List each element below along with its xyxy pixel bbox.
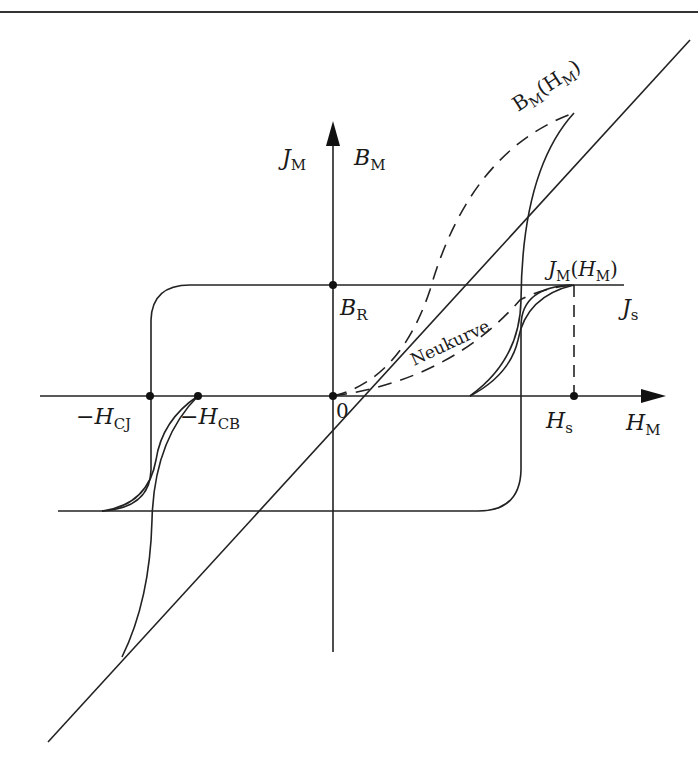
j-loop-left-side (102, 285, 190, 511)
b-loop-left-branch (122, 396, 198, 657)
j-curve-label: JM(HM) (544, 257, 618, 284)
coercivity-b-label: −HCB (180, 404, 240, 433)
coercivity-j-label: −HCJ (76, 404, 131, 433)
b-loop-right-branch (470, 113, 574, 396)
b-curve-label: BM(HM) (508, 54, 587, 118)
coercivity-j-point (146, 392, 154, 400)
remanence-point (329, 281, 337, 289)
j-loop-inner-right (470, 285, 574, 396)
saturation-label: Js (618, 295, 639, 324)
vertical-axis-arrow-icon (326, 121, 340, 146)
remanence-label: BR (339, 295, 368, 324)
axis-label-jm: JM (278, 145, 306, 174)
origin-label: 0 (336, 399, 349, 423)
axis-label-bm: BM (353, 145, 386, 174)
virgin-curve-label: Neukurve (407, 316, 492, 370)
hysteresis-diagram: JM BM HM 0 BR −HCJ −HCB Hs JM(HM) Js BM(… (0, 0, 698, 782)
coercivity-b-point (194, 392, 202, 400)
axis-label-hm: HM (625, 410, 661, 439)
horizontal-axis-arrow-icon (641, 389, 666, 403)
saturation-field-label: Hs (545, 408, 573, 437)
saturation-field-point (570, 392, 578, 400)
